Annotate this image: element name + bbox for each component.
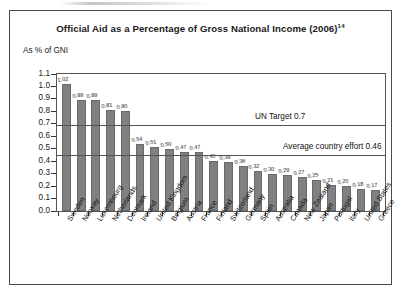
x-axis-label-slot: Greece — [369, 217, 384, 295]
y-axis-tick-label: 0.4 — [39, 156, 50, 165]
reference-line-label: UN Target 0.7 — [255, 112, 305, 121]
reference-line — [57, 155, 385, 156]
bar-value-label: 0.47 — [175, 144, 187, 151]
reference-line-label: Average country effort 0.46 — [283, 142, 381, 151]
x-axis-label-slot: Sweden — [58, 217, 73, 295]
bar-value-label: 0.30 — [263, 165, 275, 172]
y-axis-tick-label: 0.7 — [39, 118, 50, 127]
bar — [62, 84, 71, 211]
bar-value-label: 0.80 — [116, 103, 128, 110]
x-axis-label-slot: Portugal — [325, 217, 340, 295]
chart-figure-frame: Official Aid as a Percentage of Gross Na… — [9, 10, 392, 285]
bar-slot: 0.47 — [192, 74, 207, 211]
bar-slot: 0.39 — [221, 74, 236, 211]
x-axis-label-slot: Belgium — [162, 217, 177, 295]
x-axis-label-slot: Finland — [206, 217, 221, 295]
bar-value-label: 0.50 — [160, 140, 172, 147]
y-axis-tick-label: 1.0 — [39, 81, 50, 90]
scan-artifact — [60, 2, 210, 5]
bar-value-label: 0.81 — [101, 102, 113, 109]
x-axis-label-slot: Canada — [280, 217, 295, 295]
chart-title: Official Aid as a Percentage of Gross Na… — [10, 22, 391, 34]
x-axis-label-slot: Ireland — [132, 217, 147, 295]
y-axis-tick-label: 0.3 — [39, 168, 50, 177]
chart-title-text: Official Aid as a Percentage of Gross Na… — [56, 23, 337, 34]
x-axis-label-slot: United Kingdom — [147, 217, 162, 295]
bar-slot: 0.40 — [206, 74, 221, 211]
x-axis-label-slot: Italy — [339, 217, 354, 295]
y-axis-tick-label: 1.1 — [39, 69, 50, 78]
bar-value-label: 0.17 — [366, 181, 378, 188]
x-axis-label-slot: Japan — [310, 217, 325, 295]
y-axis-tick-label: 0.5 — [39, 143, 50, 152]
x-axis-label-slot: Denmark — [117, 217, 132, 295]
bar-slot: 0.89 — [88, 74, 103, 211]
x-axis-label-slot: Australia — [265, 217, 280, 295]
bar-value-label: 0.51 — [145, 139, 157, 146]
y-axis: 1.11.00.90.80.70.60.50.40.30.20.10.0 — [22, 73, 56, 212]
bar-value-label: 0.89 — [86, 92, 98, 99]
y-axis-tick-label: 0.9 — [39, 93, 50, 102]
bar-value-label: 0.36 — [234, 158, 246, 165]
chart-title-footnote: 14 — [338, 22, 345, 29]
x-axis-label-slot: Austria — [177, 217, 192, 295]
x-axis-label-slot: Netherlands — [102, 217, 117, 295]
reference-line — [57, 125, 385, 126]
bar-value-label: 0.25 — [308, 171, 320, 178]
bar-value-label: 0.47 — [190, 144, 202, 151]
x-axis-label-slot: France — [191, 217, 206, 295]
y-axis-unit-label: As % of GNI — [23, 46, 68, 55]
bar-value-label: 0.18 — [352, 180, 364, 187]
y-axis-tick-label: 0.2 — [39, 181, 50, 190]
y-axis-tick-label: 0.0 — [39, 206, 50, 215]
bar-value-label: 0.54 — [131, 135, 143, 142]
x-axis-label-slot: Germany — [236, 217, 251, 295]
x-axis-label-slot: New Zealand — [295, 217, 310, 295]
bar-value-label: 0.89 — [72, 92, 84, 99]
bar-value-label: 1.02 — [57, 76, 69, 83]
bar-value-label: 0.29 — [278, 166, 290, 173]
y-axis-tick-label: 0.8 — [39, 106, 50, 115]
x-axis-label-slot: Luxembourg — [88, 217, 103, 295]
x-axis-label-slot: Switzerland — [221, 217, 236, 295]
y-axis-tick-label: 0.6 — [39, 131, 50, 140]
bar-value-label: 0.27 — [293, 169, 305, 176]
x-axis-label-slot: Norway — [73, 217, 88, 295]
plot-area: 1.020.890.890.810.800.540.510.500.470.47… — [56, 73, 386, 212]
x-axis-label-slot: Spain — [251, 217, 266, 295]
bar-value-label: 0.32 — [249, 163, 261, 170]
x-axis-label-slot: United States — [354, 217, 369, 295]
x-axis-category-labels: SwedenNorwayLuxembourgNetherlandsDenmark… — [56, 217, 386, 295]
bar-value-label: 0.20 — [337, 178, 349, 185]
bar-slot: 0.30 — [265, 74, 280, 211]
y-axis-tick-label: 0.1 — [39, 193, 50, 202]
